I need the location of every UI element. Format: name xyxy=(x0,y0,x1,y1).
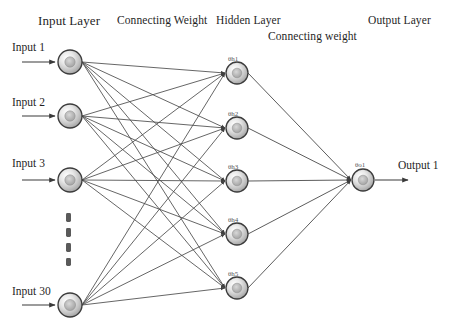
edge-i1-h1 xyxy=(82,62,225,73)
label-output-1: Output 1 xyxy=(398,159,439,171)
input-node-3 xyxy=(58,168,82,192)
hidden-node-1 xyxy=(226,62,248,84)
label-input-30: Input 30 xyxy=(12,285,51,297)
label-input-1: Input 1 xyxy=(12,41,45,53)
header-connecting-weight-2: Connecting weight xyxy=(268,30,357,42)
edge-h4-o1 xyxy=(248,180,351,234)
input-node-1 xyxy=(58,50,82,74)
edge-i3-h5 xyxy=(82,180,225,288)
edge-i1-h4 xyxy=(82,62,225,234)
edge-h2-o1 xyxy=(248,128,351,180)
edge-i30-h5 xyxy=(82,288,225,305)
edge-i30-h3 xyxy=(82,181,225,305)
label-input-3: Input 3 xyxy=(12,157,45,169)
header-connecting-weight-1: Connecting Weight xyxy=(117,14,207,26)
edge-h3-o1 xyxy=(248,180,351,181)
theta-label-h4: θh4 xyxy=(228,216,238,224)
hidden-node-2 xyxy=(226,117,248,139)
edge-h5-o1 xyxy=(248,180,351,288)
theta-label-h3: θh3 xyxy=(228,163,238,171)
hidden-to-output-edges xyxy=(248,73,351,288)
hidden-layer-nodes xyxy=(226,62,248,299)
header-output-layer: Output Layer xyxy=(368,14,431,26)
input-node-30 xyxy=(58,293,82,317)
hidden-node-4 xyxy=(226,223,248,245)
input-to-hidden-edges xyxy=(82,62,225,305)
input-ellipsis-dots xyxy=(66,213,71,266)
output-node-1 xyxy=(352,169,374,191)
edge-i3-h3 xyxy=(82,180,225,181)
ellipsis-dot xyxy=(66,258,71,266)
input-layer-nodes xyxy=(58,50,82,317)
edge-h1-o1 xyxy=(248,73,351,180)
theta-label-o1: θo1 xyxy=(355,161,365,169)
theta-label-h5: θh5 xyxy=(228,270,238,278)
theta-label-h1: θh1 xyxy=(228,55,238,63)
neural-network-diagram: Input Layer Connecting Weight Hidden Lay… xyxy=(0,0,453,333)
theta-label-h2: θh2 xyxy=(228,110,238,118)
header-input-layer: Input Layer xyxy=(38,13,100,29)
edge-i3-h4 xyxy=(82,180,225,234)
edge-i2-h5 xyxy=(82,116,225,288)
edge-i2-h3 xyxy=(82,116,225,181)
label-input-2: Input 2 xyxy=(12,96,45,108)
header-hidden-layer: Hidden Layer xyxy=(216,14,281,26)
input-node-2 xyxy=(58,104,82,128)
ellipsis-dot xyxy=(66,228,71,237)
network-graph-canvas xyxy=(0,0,453,333)
hidden-node-3 xyxy=(226,170,248,192)
ellipsis-dot xyxy=(66,213,71,222)
edge-i30-h1 xyxy=(82,73,225,305)
ellipsis-dot xyxy=(66,243,71,252)
hidden-node-5 xyxy=(226,277,248,299)
